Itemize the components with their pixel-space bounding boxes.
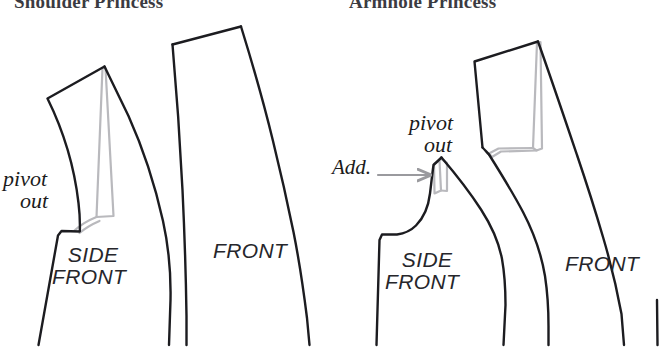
left-side-front-line1: SIDE <box>60 244 126 266</box>
left-pivot-line2: out <box>20 190 48 212</box>
left-front-seam-edge <box>241 27 310 346</box>
left-front-top-edge <box>173 27 242 45</box>
left-side-front-label: SIDE FRONT <box>60 244 126 288</box>
right-pivot-ghost-wedge <box>489 42 542 157</box>
right-front-seam-edge <box>538 42 624 346</box>
left-pivot-line1: pivot <box>2 168 48 190</box>
left-pivot-out-label: pivot out <box>2 168 48 213</box>
right-side-front-line2: FRONT <box>385 271 459 293</box>
right-side-front-label: SIDE FRONT <box>395 249 459 293</box>
right-front-left-lower-edge <box>489 155 549 346</box>
right-front-outline <box>475 42 539 148</box>
right-add-label: Add. <box>332 157 371 178</box>
left-side-front-line2: FRONT <box>52 266 126 288</box>
left-side-front-outline <box>39 67 105 346</box>
right-front-label: FRONT <box>565 253 639 275</box>
right-pivot-out-label: pivot out <box>409 112 453 157</box>
left-front-outline <box>173 45 187 346</box>
right-side-front-line1: SIDE <box>395 249 459 271</box>
left-front-label: FRONT <box>213 240 287 262</box>
left-pivot-ghost-wedge <box>75 68 114 233</box>
left-side-front-seam-edge <box>105 67 171 346</box>
pattern-diagram-canvas: Shoulder Princess Armhole Princess <box>0 0 667 352</box>
right-front-far-edge <box>657 300 658 345</box>
right-pivot-line1: pivot <box>409 112 453 134</box>
right-pivot-line2: out <box>423 134 453 156</box>
right-front-armhole-edge <box>483 148 490 155</box>
